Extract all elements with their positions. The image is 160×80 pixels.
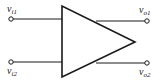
amplifier-diagram [0,0,160,80]
input-1-subscript: i1 [11,8,16,16]
input-2-terminal [9,60,13,64]
output-2-subscript: o2 [143,71,150,79]
output-1-label: vo1 [139,5,150,17]
output-2-terminal [145,61,149,65]
amplifier-triangle [62,6,135,77]
input-2-label: vi2 [7,66,17,78]
output-1-terminal [145,19,149,23]
output-2-label: vo2 [139,67,150,79]
output-1-subscript: o1 [143,9,150,17]
input-2-subscript: i2 [11,70,16,78]
input-1-label: vi1 [7,4,17,16]
input-1-terminal [9,17,13,21]
